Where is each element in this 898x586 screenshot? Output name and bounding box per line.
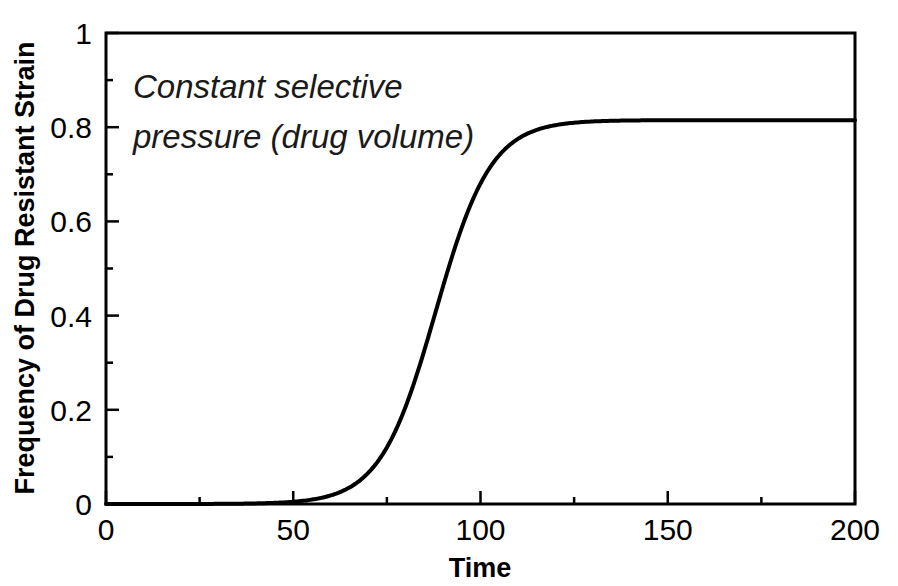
y-tick-label: 0.4 (50, 300, 92, 333)
y-axis-title: Frequency of Drug Resistant Strain (10, 41, 40, 494)
sigmoid-line-chart: 050100150200 00.20.40.60.81 Constant sel… (0, 0, 898, 586)
x-tick-label: 50 (277, 513, 310, 546)
y-tick-label: 1 (75, 17, 92, 50)
annotation-line-2: pressure (drug volume) (132, 118, 474, 155)
x-tick-label: 0 (98, 513, 115, 546)
x-axis-title: Time (449, 553, 512, 583)
y-tick-label: 0.2 (50, 394, 92, 427)
y-tick-label: 0 (75, 488, 92, 521)
annotation-line-1: Constant selective (133, 68, 403, 105)
chart-figure: 050100150200 00.20.40.60.81 Constant sel… (0, 0, 898, 586)
x-tick-label: 100 (455, 513, 505, 546)
y-tick-label: 0.8 (50, 111, 92, 144)
x-tick-label: 150 (643, 513, 693, 546)
x-tick-label: 200 (830, 513, 880, 546)
y-tick-label: 0.6 (50, 205, 92, 238)
